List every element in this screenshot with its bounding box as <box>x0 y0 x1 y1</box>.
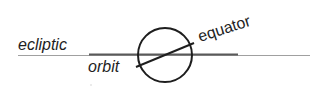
equator-label: equator <box>196 12 254 45</box>
scan-speck <box>90 84 91 85</box>
ecliptic-orbit-equator-diagram: ecliptic orbit equator <box>0 0 329 90</box>
ecliptic-label: ecliptic <box>18 36 67 53</box>
orbit-label: orbit <box>88 58 120 75</box>
